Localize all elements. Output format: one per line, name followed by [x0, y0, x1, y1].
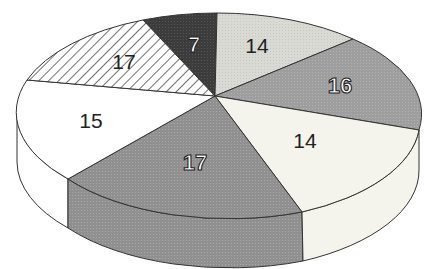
label-14-bottom: 14 — [293, 129, 317, 152]
label-17-solid: 17 — [183, 150, 207, 175]
pie-chart-3d: 7 14 16 14 17 15 17 — [0, 0, 429, 269]
label-16: 16 — [328, 73, 352, 98]
label-7: 7 — [188, 32, 200, 57]
label-14-top: 14 — [245, 34, 269, 57]
label-15: 15 — [79, 109, 102, 132]
label-17-hatched: 17 — [112, 50, 135, 73]
